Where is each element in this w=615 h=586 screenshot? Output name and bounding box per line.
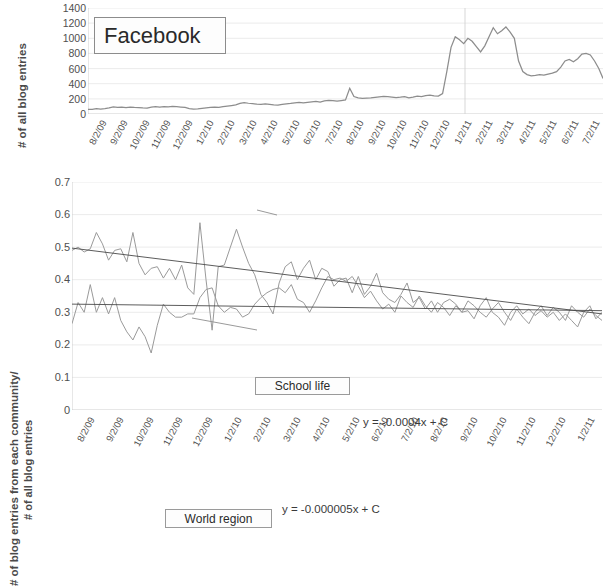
bottom-chart-series-school-life bbox=[72, 223, 602, 330]
bottom-chart-trendline-school-life bbox=[72, 248, 602, 314]
top-yticks-tick: 600 bbox=[52, 63, 86, 75]
bot-yticks-tick: 0.5 bbox=[38, 241, 70, 253]
bottom-chart-plot-area bbox=[72, 182, 602, 410]
bottom-chart-trendline-world-region bbox=[72, 304, 602, 311]
bot-yticks-tick: 0.4 bbox=[38, 273, 70, 285]
bot-yticks-tick: 0 bbox=[38, 404, 70, 416]
bottom-chart-svg bbox=[72, 182, 602, 410]
bottom-chart-y-axis-title-line1: # of blog entries from each community/ bbox=[8, 371, 20, 586]
top-yticks-tick: 200 bbox=[52, 93, 86, 105]
top-yticks-tick: 1000 bbox=[52, 32, 86, 44]
school-life-label-callout: School life bbox=[255, 377, 350, 395]
world-region-leader-line bbox=[192, 318, 257, 330]
top-chart-facebook: # of all blog entries 140012001000800600… bbox=[0, 0, 615, 172]
bottom-chart-y-axis-title-line2: # of all blog entries bbox=[22, 420, 34, 520]
bottom-chart-series-world-region bbox=[72, 276, 602, 353]
bot-yticks-tick: 0.1 bbox=[38, 371, 70, 383]
bot-yticks-tick: 0.3 bbox=[38, 306, 70, 318]
top-yticks-tick: 400 bbox=[52, 78, 86, 90]
top-yticks-tick: 1200 bbox=[52, 17, 86, 29]
top-yticks-tick: 800 bbox=[52, 47, 86, 59]
top-chart-y-axis-title: # of all blog entries bbox=[16, 43, 28, 148]
top-yticks-tick: 0 bbox=[52, 108, 86, 120]
bottom-chart-ratios: # of blog entries from each community/ #… bbox=[0, 172, 615, 474]
top-yticks-tick: 1400 bbox=[52, 2, 86, 14]
bot-yticks-tick: 0.6 bbox=[38, 208, 70, 220]
bot-yticks-tick: 0.7 bbox=[38, 176, 70, 188]
bottom-chart-gridlines bbox=[72, 182, 602, 377]
bot-yticks-tick: 0.2 bbox=[38, 338, 70, 350]
facebook-label-callout: Facebook bbox=[94, 17, 226, 54]
